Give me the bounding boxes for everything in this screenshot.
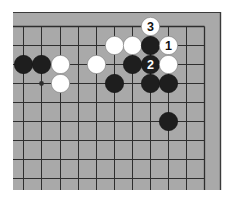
black-stone <box>105 74 123 92</box>
star-points <box>39 81 44 86</box>
black-stone-icon <box>141 36 159 54</box>
move-number-label: 1 <box>165 39 172 53</box>
black-stone-icon <box>159 74 177 92</box>
black-stone-icon <box>159 112 177 130</box>
black-stone <box>14 55 32 73</box>
white-stone-move-3: 3 <box>141 17 159 35</box>
black-stone-icon <box>14 55 32 73</box>
move-number-label: 3 <box>147 20 154 34</box>
white-stone-icon <box>159 55 177 73</box>
white-stone-icon <box>123 36 141 54</box>
star-point-icon <box>39 81 44 86</box>
black-stone-icon <box>105 74 123 92</box>
black-stone <box>159 112 177 130</box>
white-stone-icon <box>51 55 69 73</box>
black-stone <box>32 55 50 73</box>
white-stone-move-1: 1 <box>159 36 177 54</box>
white-stone <box>51 55 69 73</box>
black-stone <box>159 74 177 92</box>
black-stone <box>123 55 141 73</box>
white-stone <box>123 36 141 54</box>
black-stone-icon <box>141 74 159 92</box>
white-stone-icon <box>87 55 105 73</box>
white-stone-icon <box>51 74 69 92</box>
black-stone-icon <box>32 55 50 73</box>
black-stone-icon <box>123 55 141 73</box>
black-stone <box>141 36 159 54</box>
white-stone <box>87 55 105 73</box>
go-board-diagram: 123 <box>0 0 231 202</box>
move-number-label: 2 <box>147 58 154 72</box>
black-stone-move-2: 2 <box>141 55 159 73</box>
white-stone <box>159 55 177 73</box>
white-stone <box>105 36 123 54</box>
black-stone <box>141 74 159 92</box>
white-stone-icon <box>105 36 123 54</box>
white-stone <box>51 74 69 92</box>
